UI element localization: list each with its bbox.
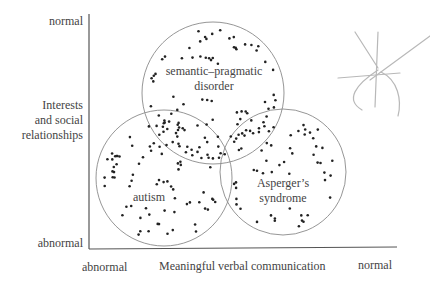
scatter-dot — [158, 133, 161, 136]
scatter-dot — [172, 188, 175, 191]
scatter-dot — [214, 201, 217, 204]
scatter-dot — [207, 208, 210, 211]
scatter-dot — [205, 123, 208, 126]
scatter-dot — [297, 130, 300, 133]
scatter-dot — [207, 156, 210, 159]
label-semantic-pragmatic: semantic–pragmatic disorder — [158, 64, 270, 94]
scatter-dot — [230, 135, 233, 138]
scatter-dot — [217, 135, 220, 138]
scatter-dot — [244, 43, 247, 46]
scatter-dot — [319, 162, 322, 165]
scatter-dot — [111, 176, 114, 179]
scatter-dot — [256, 221, 259, 224]
scatter-dot — [150, 77, 153, 80]
scatter-dot — [150, 150, 153, 153]
scatter-dot — [300, 214, 303, 217]
scatter-dot — [183, 129, 186, 132]
scatter-dot — [329, 174, 332, 177]
group-label-line: Asperger’s — [245, 176, 321, 191]
scatter-dot — [264, 61, 267, 64]
scatter-dot — [115, 163, 118, 166]
scatter-dot — [253, 169, 256, 172]
scatter-dot — [202, 191, 205, 194]
scatter-dot — [303, 133, 306, 136]
scatter-dot — [267, 107, 270, 110]
scatter-dot — [240, 147, 243, 150]
scatter-dot — [196, 124, 199, 127]
scatter-dot — [233, 183, 236, 186]
scatter-dot — [289, 147, 292, 150]
scatter-dot — [177, 142, 180, 145]
scatter-dot — [158, 223, 161, 226]
scatter-dot — [195, 230, 198, 233]
scatter-dot — [132, 173, 135, 176]
circle-asperger — [220, 109, 346, 235]
scatter-dot — [288, 173, 291, 176]
scatter-dot — [274, 99, 277, 102]
scatter-dot — [156, 183, 159, 186]
scatter-dot — [239, 118, 242, 121]
scatter-dot — [274, 217, 277, 220]
scatter-dot — [211, 119, 214, 122]
scatter-dot — [206, 99, 209, 102]
scatter-dot — [298, 225, 301, 228]
group-label-line: disorder — [158, 79, 270, 94]
scatter-dot — [148, 213, 151, 216]
scatter-dot — [172, 95, 175, 98]
y-axis-title-line: relationships — [22, 128, 83, 143]
scatter-dot — [240, 110, 243, 113]
scatter-dot — [235, 48, 238, 51]
scatter-dot — [163, 209, 166, 212]
scatter-dot — [191, 56, 194, 59]
scatter-dot — [312, 137, 315, 140]
scatter-dot — [265, 160, 268, 163]
y-axis-title-line: Interests — [22, 98, 83, 113]
scatter-dot — [103, 185, 106, 188]
y-axis-top-label: normal — [49, 14, 83, 28]
scatter-dot — [262, 121, 265, 124]
scatter-dot — [139, 217, 142, 220]
scatter-dot — [219, 152, 222, 155]
scatter-dot — [235, 203, 238, 206]
scatter-dot — [309, 131, 312, 134]
scatter-dot — [152, 80, 155, 83]
scatter-dot — [233, 141, 236, 144]
scatter-dot — [204, 36, 207, 39]
scatter-dot — [262, 172, 265, 175]
scatter-dot — [161, 153, 164, 156]
scatter-dot — [197, 30, 200, 33]
scatter-dot — [272, 94, 275, 97]
scatter-dot — [266, 142, 269, 145]
scatter-dot — [166, 233, 169, 236]
scatter-dot — [265, 115, 268, 118]
y-axis-title-line: and social — [22, 113, 83, 128]
scatter-dot — [241, 132, 244, 135]
scatter-dot — [177, 129, 180, 132]
scatter-dot — [233, 36, 236, 39]
scatter-dot — [106, 158, 109, 161]
scatter-dot — [289, 134, 292, 137]
scatter-dot — [103, 176, 106, 179]
scatter-dot — [210, 100, 213, 103]
scatter-dot — [162, 181, 165, 184]
scatter-dot — [315, 145, 318, 148]
scatter-dot — [235, 187, 238, 190]
scatter-dot — [155, 125, 158, 128]
scatter-dot — [278, 164, 281, 167]
scatter-dot — [312, 153, 315, 156]
scatter-dot — [235, 137, 238, 140]
scatter-dot — [185, 151, 188, 154]
scatter-dot — [186, 203, 189, 206]
scatter-dot — [191, 154, 194, 157]
scatter-dot — [271, 171, 274, 174]
scatter-dot — [204, 207, 207, 210]
scatter-dot — [139, 230, 142, 233]
scatter-dot — [256, 169, 259, 172]
scatter-dot — [162, 125, 165, 128]
scatter-dot — [236, 123, 239, 126]
scatter-dot — [272, 126, 275, 129]
circle-autism — [96, 110, 232, 246]
scatter-dot — [177, 122, 180, 125]
scatter-dot — [211, 198, 214, 201]
scatter-dot — [323, 171, 326, 174]
